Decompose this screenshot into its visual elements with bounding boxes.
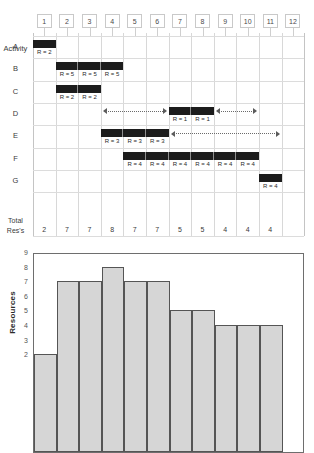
total-resources-value: 5: [169, 226, 192, 233]
activity-row-label-B: B: [0, 64, 31, 73]
timeline-column-header-12: 12: [285, 14, 300, 28]
histogram-y-tick-6: 6: [14, 293, 28, 300]
histogram-bar: [102, 267, 125, 452]
activity-bar-segment: [78, 62, 101, 70]
resource-value-label: R = 2: [33, 48, 56, 56]
activity-bar-segment: [169, 152, 192, 160]
histogram-bar: [147, 281, 170, 452]
grid-line-horizontal: [33, 236, 304, 237]
timeline-column-header-3: 3: [82, 14, 97, 28]
activity-row-label-A: A: [0, 42, 31, 51]
resource-value-label: R = 4: [214, 160, 237, 168]
activity-row-label-G: G: [0, 176, 31, 185]
activity-bar-segment: [146, 152, 169, 160]
timeline-column-header-8: 8: [195, 14, 210, 28]
activity-row-label-D: D: [0, 109, 31, 118]
histogram-y-tick-8: 8: [14, 264, 28, 271]
histogram-bar: [57, 281, 80, 452]
timeline-column-header-11: 11: [263, 14, 278, 28]
total-resources-value: 4: [259, 226, 282, 233]
timeline-column-header-1: 1: [37, 14, 52, 28]
activity-bar-C[interactable]: [56, 85, 101, 93]
header-tick: [90, 28, 91, 36]
activity-bar-B[interactable]: [56, 62, 124, 70]
histogram-y-tick-2: 2: [14, 351, 28, 358]
histogram-y-tick-4: 4: [14, 322, 28, 329]
activity-bar-A[interactable]: [33, 40, 56, 48]
header-tick: [180, 28, 181, 36]
header-tick: [270, 28, 271, 36]
resource-value-label: R = 2: [78, 93, 101, 101]
resource-value-label: R = 1: [191, 115, 214, 123]
activity-bar-G[interactable]: [259, 174, 282, 182]
histogram-y-tick-3: 3: [14, 337, 28, 344]
grid-line-horizontal: [33, 192, 304, 193]
histogram-bar: [260, 325, 283, 452]
resource-value-label: R = 4: [123, 160, 146, 168]
grid-line-horizontal: [33, 125, 304, 126]
grid-line-horizontal: [33, 148, 304, 149]
arrow-head-right-icon: [163, 108, 167, 114]
arrow-head-right-icon: [253, 108, 257, 114]
histogram-y-tick-7: 7: [14, 278, 28, 285]
activity-bar-segment: [191, 107, 214, 115]
header-tick: [135, 28, 136, 36]
histogram-bar: [34, 354, 57, 452]
totals-label-line2: Res's: [0, 226, 31, 235]
total-resources-value: 4: [236, 226, 259, 233]
activity-row-label-C: C: [0, 87, 31, 96]
total-resources-value: 5: [191, 226, 214, 233]
resource-value-label: R = 3: [146, 137, 169, 145]
histogram-bar: [237, 325, 260, 452]
resource-value-label: R = 5: [101, 70, 124, 78]
arrow-head-right-icon: [276, 131, 280, 137]
activity-row-label-E: E: [0, 131, 31, 140]
float-arrow: [171, 130, 280, 137]
total-resources-value: 7: [78, 226, 101, 233]
grid-line-vertical: [33, 33, 34, 236]
activity-bar-F[interactable]: [123, 152, 259, 160]
total-resources-value: 8: [101, 226, 124, 233]
float-arrow: [216, 108, 257, 115]
activity-bar-segment: [56, 62, 79, 70]
header-tick: [293, 28, 294, 36]
resource-value-label: R = 3: [101, 137, 124, 145]
timeline-column-header-5: 5: [127, 14, 142, 28]
total-resources-value: 4: [214, 226, 237, 233]
grid-line-horizontal: [33, 170, 304, 171]
timeline-column-header-2: 2: [59, 14, 74, 28]
activity-bar-segment: [78, 85, 101, 93]
activity-bar-segment: [123, 129, 146, 137]
activity-bar-segment: [146, 129, 169, 137]
grid-line-vertical: [282, 33, 283, 236]
activity-bar-segment: [33, 40, 56, 48]
total-resources-value: 7: [123, 226, 146, 233]
grid-line-horizontal: [33, 103, 304, 104]
activity-bar-segment: [191, 152, 214, 160]
float-arrow: [103, 108, 167, 115]
resource-value-label: R = 4: [259, 182, 282, 190]
arrow-shaft: [106, 111, 164, 112]
activity-bar-segment: [56, 85, 79, 93]
header-tick: [225, 28, 226, 36]
total-resources-value: 2: [33, 226, 56, 233]
resource-value-label: R = 5: [56, 70, 79, 78]
activity-bar-D[interactable]: [169, 107, 214, 115]
resource-histogram: Resources 98765432: [0, 248, 314, 380]
grid-line-vertical: [304, 33, 305, 236]
timeline-column-header-10: 10: [240, 14, 255, 28]
activity-bar-E[interactable]: [101, 129, 169, 137]
activity-bar-segment: [214, 152, 237, 160]
header-tick: [248, 28, 249, 36]
total-resources-value: 7: [146, 226, 169, 233]
header-tick: [203, 28, 204, 36]
header-tick: [112, 28, 113, 36]
histogram-bar: [170, 310, 193, 452]
grid-line-horizontal: [33, 81, 304, 82]
activity-bar-segment: [101, 129, 124, 137]
timeline-column-header-6: 6: [150, 14, 165, 28]
resource-value-label: R = 2: [56, 93, 79, 101]
header-tick: [157, 28, 158, 36]
histogram-bar: [192, 310, 215, 452]
